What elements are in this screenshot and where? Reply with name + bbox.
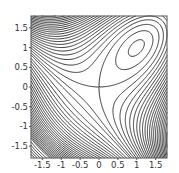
contour-lines	[31, 16, 167, 158]
x-tick-label: 0	[96, 160, 101, 170]
y-tick-label: -1	[20, 121, 28, 131]
y-tick-label: -0.5	[11, 102, 28, 112]
y-tick-label: 0.5	[14, 62, 28, 72]
y-tick-label: 1	[23, 43, 28, 53]
x-tick-label: -1	[57, 160, 65, 170]
x-tick-label: -0.5	[72, 160, 89, 170]
x-axis-ticks: -1.5-1-0.500.511.5	[34, 158, 162, 170]
y-tick-label: 1.5	[14, 23, 28, 33]
y-tick-label: -1.5	[11, 141, 28, 151]
y-axis-ticks: -1.5-1-0.500.511.5	[11, 23, 31, 151]
x-tick-label: 0.5	[111, 160, 125, 170]
contour-plot: -1.5-1-0.500.511.5 -1.5-1-0.500.511.5	[0, 0, 179, 173]
x-tick-label: 1	[134, 160, 139, 170]
y-tick-label: 0	[23, 82, 28, 92]
x-tick-label: 1.5	[149, 160, 163, 170]
contour-line	[31, 58, 127, 158]
x-tick-label: -1.5	[34, 160, 51, 170]
